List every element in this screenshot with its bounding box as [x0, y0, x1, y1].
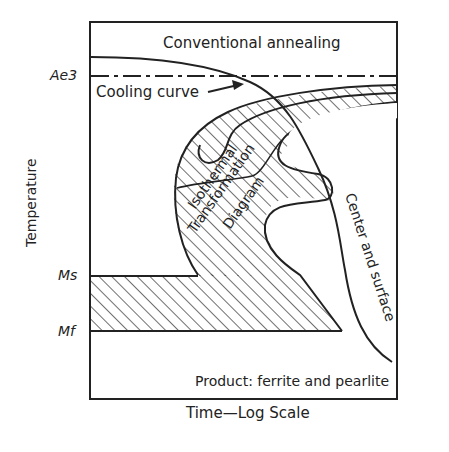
- region-title-conventional-annealing: Conventional annealing: [163, 34, 341, 52]
- annealing-diagram: Conventional annealing Ae3 Cooling curve…: [0, 0, 449, 452]
- product-label: Product: ferrite and pearlite: [195, 373, 389, 389]
- arrowhead-icon: [232, 80, 244, 90]
- center-surface-label: Center and surface: [342, 191, 399, 323]
- cooling-curve-label: Cooling curve: [96, 83, 199, 101]
- ms-label: Ms: [58, 267, 77, 283]
- x-axis-label: Time—Log Scale: [185, 404, 310, 422]
- mf-label: Mf: [58, 323, 77, 339]
- y-axis-label: Temperature: [23, 158, 39, 248]
- ae3-label: Ae3: [49, 67, 77, 83]
